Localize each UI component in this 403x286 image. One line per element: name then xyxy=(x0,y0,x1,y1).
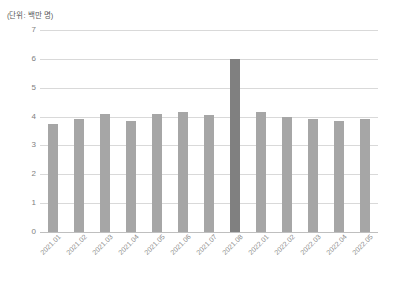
x-axis-tick-label: 2021.04 xyxy=(117,233,140,256)
bar xyxy=(308,119,318,232)
bar xyxy=(256,112,266,232)
x-axis-tick-label: 2022.02 xyxy=(273,233,296,256)
x-axis-tick-label: 2021.06 xyxy=(169,233,192,256)
bar xyxy=(152,114,162,232)
bar xyxy=(48,124,58,232)
unit-label: (단위: 백만 명) xyxy=(7,9,53,20)
x-axis-tick-label: 2021.07 xyxy=(195,233,218,256)
y-axis-tick-label: 0 xyxy=(8,228,36,236)
x-axis-tick-label: 2021.08 xyxy=(221,233,244,256)
x-axis-tick-label: 2022.04 xyxy=(325,233,348,256)
y-axis-tick-label: 1 xyxy=(8,199,36,207)
y-axis-tick-label: 7 xyxy=(8,26,36,34)
bar xyxy=(282,117,292,232)
y-axis-tick-label: 6 xyxy=(8,55,36,63)
y-axis-tick-label: 4 xyxy=(8,113,36,121)
x-axis: 2021.012021.022021.032021.042021.052021.… xyxy=(40,233,378,286)
x-axis-tick-label: 2021.01 xyxy=(39,233,62,256)
x-axis-tick-label: 2021.03 xyxy=(91,233,114,256)
y-axis-tick-label: 5 xyxy=(8,84,36,92)
x-axis-tick-label: 2022.05 xyxy=(351,233,374,256)
x-axis-tick-label: 2021.05 xyxy=(143,233,166,256)
bar-highlighted xyxy=(230,59,240,232)
y-axis-tick-label: 2 xyxy=(8,170,36,178)
bar xyxy=(100,114,110,232)
y-axis: 76543210 xyxy=(4,30,36,232)
bars-layer xyxy=(40,30,378,232)
bar xyxy=(74,119,84,232)
bar xyxy=(126,121,136,232)
x-axis-tick-label: 2022.03 xyxy=(299,233,322,256)
bar xyxy=(334,121,344,232)
bar xyxy=(204,115,214,232)
bar xyxy=(360,119,370,232)
x-axis-tick-label: 2022.01 xyxy=(247,233,270,256)
bar-chart: (단위: 백만 명) 76543210 2021.012021.022021.0… xyxy=(0,0,403,286)
bar xyxy=(178,112,188,232)
x-axis-tick-label: 2021.02 xyxy=(65,233,88,256)
y-axis-tick-label: 3 xyxy=(8,141,36,149)
